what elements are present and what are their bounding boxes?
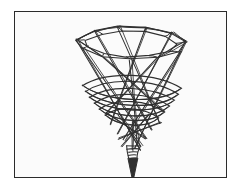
- needle-tip: [128, 158, 138, 177]
- cone-wireframe-drawing: [15, 12, 226, 177]
- figure-root: Conical wireframe spinning-top sketch: [0, 0, 241, 190]
- top-rim: [76, 26, 186, 59]
- figure-frame: [14, 11, 227, 178]
